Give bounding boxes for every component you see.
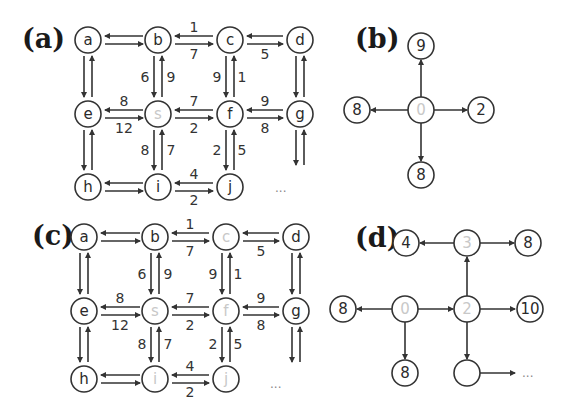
node-label: 2 bbox=[462, 300, 472, 318]
node-label: 8 bbox=[400, 364, 410, 382]
node-label: 0 bbox=[416, 101, 426, 119]
panel-d-label: (d) bbox=[355, 222, 399, 253]
weight: 4 bbox=[190, 166, 199, 182]
weight: 7 bbox=[186, 243, 195, 259]
weight: 9 bbox=[257, 290, 266, 306]
panel-d: (d) 4 3 8 8 0 2 10 bbox=[330, 222, 543, 386]
weight: 9 bbox=[209, 266, 218, 282]
weights-c: 1 7 5 6 9 9 1 8 12 7 2 9 8 8 7 2 5 4 2 bbox=[111, 216, 265, 400]
weight: 8 bbox=[116, 290, 125, 306]
weight: 8 bbox=[138, 336, 147, 352]
weight: 9 bbox=[261, 93, 270, 109]
edges-d bbox=[357, 243, 515, 373]
node-label: f bbox=[227, 105, 233, 123]
node-label: 8 bbox=[416, 166, 426, 184]
node-label: c bbox=[222, 228, 230, 246]
edges-a-row1 bbox=[105, 36, 283, 44]
node-label: 9 bbox=[416, 37, 426, 55]
weight: 4 bbox=[186, 358, 195, 374]
node-label: 8 bbox=[338, 300, 348, 318]
weight: 1 bbox=[186, 216, 195, 232]
weight: 5 bbox=[261, 46, 270, 62]
weight: 9 bbox=[167, 69, 176, 85]
weight: 9 bbox=[164, 266, 173, 282]
weight: 2 bbox=[190, 120, 199, 136]
node-label: a bbox=[79, 228, 88, 246]
weight: 2 bbox=[186, 384, 195, 400]
node-label: 4 bbox=[401, 234, 411, 252]
weight: 1 bbox=[190, 19, 199, 35]
node-label: 10 bbox=[520, 300, 539, 318]
node-label: e bbox=[79, 302, 88, 320]
edges-a-row2 bbox=[105, 110, 283, 118]
node-label: f bbox=[223, 302, 229, 320]
weight: 9 bbox=[213, 69, 222, 85]
panel-a: (a) bbox=[22, 19, 313, 208]
weight: 7 bbox=[190, 46, 199, 62]
weight: 7 bbox=[167, 142, 176, 158]
panel-c: (c) bbox=[32, 216, 309, 400]
node-label: j bbox=[223, 370, 228, 388]
weight: 12 bbox=[115, 120, 133, 136]
node-label: i bbox=[153, 370, 157, 388]
node-label: s bbox=[154, 105, 162, 123]
node-label: d bbox=[295, 31, 305, 49]
nodes-d: 4 3 8 8 0 2 10 8 bbox=[330, 230, 543, 386]
node-label: b bbox=[150, 228, 160, 246]
node-label: 8 bbox=[352, 101, 362, 119]
weights-a: 1 7 5 6 9 9 1 8 12 7 2 9 8 8 7 2 5 4 2 bbox=[115, 19, 269, 208]
figure-canvas: (a) bbox=[0, 0, 570, 412]
weight: 6 bbox=[138, 266, 147, 282]
weight: 6 bbox=[141, 69, 150, 85]
weight: 1 bbox=[238, 69, 247, 85]
weight: 2 bbox=[186, 317, 195, 333]
weight: 8 bbox=[261, 120, 270, 136]
weight: 5 bbox=[234, 336, 243, 352]
node-label: i bbox=[156, 178, 160, 196]
weight: 5 bbox=[257, 243, 266, 259]
weight: 2 bbox=[213, 142, 222, 158]
panel-b-label: (b) bbox=[355, 23, 399, 54]
node-blank bbox=[454, 360, 480, 386]
weight: 12 bbox=[111, 317, 129, 333]
node-label: g bbox=[291, 302, 301, 320]
node-label: 0 bbox=[400, 300, 410, 318]
node-label: g bbox=[295, 105, 305, 123]
edges-a-vertical bbox=[84, 56, 304, 170]
weight: 8 bbox=[141, 142, 150, 158]
node-label: 8 bbox=[523, 234, 533, 252]
nodes-b: 9 8 0 2 8 bbox=[344, 33, 494, 188]
weight: 5 bbox=[238, 142, 247, 158]
weight: 7 bbox=[186, 290, 195, 306]
node-label: d bbox=[291, 228, 301, 246]
node-label: e bbox=[83, 105, 92, 123]
node-label: h bbox=[83, 178, 93, 196]
panel-c-label: (c) bbox=[32, 220, 74, 251]
ellipsis: ... bbox=[270, 377, 281, 391]
weight: 2 bbox=[190, 192, 199, 208]
weight: 1 bbox=[234, 266, 243, 282]
panel-b: (b) 9 8 0 2 8 bbox=[344, 23, 494, 188]
panel-a-label: (a) bbox=[22, 23, 65, 54]
ellipsis: ... bbox=[275, 181, 286, 195]
weight: 8 bbox=[120, 93, 129, 109]
node-label: a bbox=[83, 31, 92, 49]
weight: 8 bbox=[257, 317, 266, 333]
node-label: b bbox=[153, 31, 163, 49]
node-label: s bbox=[151, 302, 159, 320]
node-label: h bbox=[79, 370, 89, 388]
weight: 7 bbox=[164, 336, 173, 352]
node-label: j bbox=[227, 178, 232, 196]
ellipsis: ... bbox=[522, 366, 533, 380]
weight: 7 bbox=[190, 93, 199, 109]
node-label: c bbox=[226, 31, 234, 49]
weight: 2 bbox=[209, 336, 218, 352]
node-label: 3 bbox=[462, 234, 472, 252]
node-label: 2 bbox=[476, 101, 486, 119]
